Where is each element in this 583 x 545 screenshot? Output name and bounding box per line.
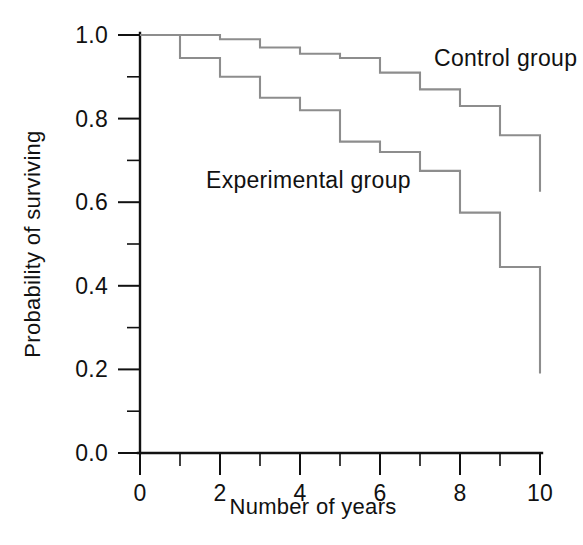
annotation-label-1: Experimental group: [206, 167, 411, 193]
x-axis-minor-ticks: [180, 453, 500, 466]
y-tick-label-0: 0.0: [75, 440, 108, 466]
y-axis-group: 0.00.20.40.60.81.0: [75, 22, 140, 466]
survival-curve-chart: 0.00.20.40.60.81.0 0246810 Control group…: [0, 0, 583, 545]
y-tick-label-1: 0.2: [75, 356, 108, 382]
x-tick-label-1: 2: [213, 480, 226, 506]
y-axis-tick-labels: 0.00.20.40.60.81.0: [75, 22, 108, 466]
annotation-label-0: Control group: [434, 45, 577, 71]
x-tick-label-4: 8: [453, 480, 466, 506]
y-axis-title: Probability of surviving: [20, 130, 45, 357]
y-tick-label-3: 0.6: [75, 189, 108, 215]
y-axis-minor-ticks: [127, 77, 140, 411]
x-tick-label-0: 0: [133, 480, 146, 506]
series-annotation-labels: Control groupExperimental group: [206, 45, 577, 192]
x-axis-title: Number of years: [229, 494, 396, 519]
y-tick-label-4: 0.8: [75, 106, 108, 132]
y-tick-label-2: 0.4: [75, 273, 108, 299]
chart-svg: 0.00.20.40.60.81.0 0246810 Control group…: [0, 0, 583, 545]
series-line-experimental-group: [140, 35, 540, 374]
y-tick-label-5: 1.0: [75, 22, 108, 48]
x-tick-label-5: 10: [527, 480, 553, 506]
series-step-lines: [140, 35, 540, 374]
